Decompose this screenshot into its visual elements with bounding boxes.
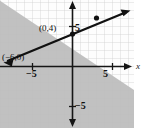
graph-screenshot: −5 5 5 −5 (0,4) (−6,0) x	[0, 0, 147, 128]
y-tick-label-neg5: −5	[75, 101, 86, 111]
graph-canvas	[0, 0, 134, 128]
x-axis-label: x	[136, 62, 140, 71]
grid-lines-overlay	[0, 0, 134, 128]
x-tick-label-pos5: 5	[103, 69, 108, 79]
x-tick-label-neg5: −5	[26, 69, 37, 79]
coordinate-plane: −5 5 5 −5 (0,4) (−6,0)	[0, 0, 134, 128]
plot-body	[0, 0, 134, 128]
y-tick-label-pos5: 5	[75, 23, 80, 33]
point-label-y-intercept: (0,4)	[39, 24, 56, 33]
point-marker-second	[94, 15, 99, 20]
point-label-x-intercept: (−6,0)	[2, 53, 24, 62]
